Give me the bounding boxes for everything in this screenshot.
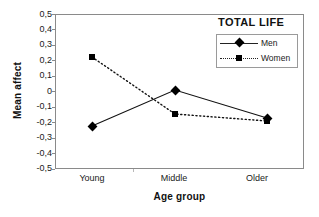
y-tick-label: 0,3 bbox=[22, 40, 52, 49]
x-tick-mark bbox=[133, 169, 134, 172]
legend-entry-men: Men bbox=[217, 36, 299, 51]
y-tick-mark bbox=[52, 45, 55, 46]
y-tick-label: -0,3 bbox=[22, 133, 52, 142]
x-tick-label-older: Older bbox=[222, 174, 292, 183]
y-tick-mark bbox=[52, 107, 55, 108]
y-tick-label: 0,1 bbox=[22, 71, 52, 80]
y-tick-mark bbox=[52, 60, 55, 61]
y-tick-label: -0,1 bbox=[22, 102, 52, 111]
y-tick-mark bbox=[52, 91, 55, 92]
x-tick-label-young: Young bbox=[57, 174, 127, 183]
legend-label-women: Women bbox=[261, 54, 290, 63]
x-axis-title: Age group bbox=[55, 191, 304, 202]
y-tick-mark bbox=[52, 153, 55, 154]
y-tick-label: 0 bbox=[22, 87, 52, 96]
legend-label-men: Men bbox=[261, 39, 278, 48]
y-tick-mark bbox=[52, 122, 55, 123]
y-tick-label: -0,5 bbox=[22, 164, 52, 173]
chart-title: TOTAL LIFE bbox=[218, 16, 284, 28]
y-tick-mark bbox=[52, 14, 55, 15]
y-tick-label: 0,4 bbox=[22, 25, 52, 34]
legend-entry-women: Women bbox=[217, 51, 299, 66]
y-tick-mark bbox=[52, 138, 55, 139]
y-tick-label: 0,2 bbox=[22, 56, 52, 65]
y-tick-label: 0,5 bbox=[22, 10, 52, 19]
y-tick-mark bbox=[52, 29, 55, 30]
legend-key-women bbox=[220, 53, 258, 65]
legend-key-men bbox=[220, 38, 258, 50]
y-tick-mark bbox=[52, 169, 55, 170]
y-tick-label: -0,4 bbox=[22, 149, 52, 158]
x-tick-label-middle: Middle bbox=[139, 174, 209, 183]
y-axis-title: Mean affect bbox=[12, 46, 23, 136]
chart-figure: 0,5 0,4 0,3 0,2 0,1 0 -0,1 -0,2 -0,3 -0,… bbox=[0, 0, 319, 217]
y-tick-label: -0,2 bbox=[22, 118, 52, 127]
y-tick-mark bbox=[52, 76, 55, 77]
chart-legend: Men Women bbox=[216, 34, 298, 68]
